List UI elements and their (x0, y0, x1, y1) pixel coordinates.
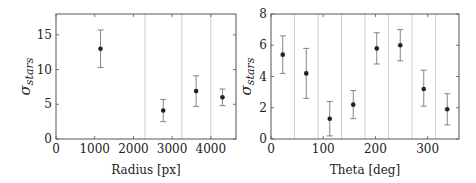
data-point (160, 99, 166, 121)
data-point (280, 36, 286, 74)
radius-chart: 01000200030004000051015Radius [px]σstars (0, 0, 238, 183)
data-point (303, 48, 309, 98)
y-tick-label: 15 (37, 28, 52, 42)
data-point (350, 91, 356, 119)
data-point (421, 70, 427, 106)
x-tick-label: 100 (312, 142, 335, 156)
y-tick-label: 2 (259, 101, 267, 115)
radius-plot-svg: 01000200030004000051015Radius [px]σstars (0, 0, 238, 183)
data-marker (374, 46, 379, 51)
y-tick-label: 8 (259, 7, 267, 21)
data-point (219, 89, 225, 106)
theta-plot-svg: 010020030002468Theta [deg]σstars (238, 0, 476, 183)
x-tick-label: 0 (52, 142, 60, 156)
y-tick-label: 4 (259, 70, 267, 84)
data-point (397, 30, 403, 61)
data-marker (98, 46, 103, 51)
y-tick-label: 0 (259, 132, 267, 146)
data-marker (327, 116, 332, 121)
y-axis-label: σstars (238, 57, 257, 95)
x-tick-label: 200 (364, 142, 387, 156)
data-point (98, 30, 104, 68)
x-axis-label: Radius [px] (111, 163, 181, 177)
data-point (327, 102, 333, 136)
data-marker (398, 43, 403, 48)
x-axis-label: Theta [deg] (330, 163, 400, 177)
theta-chart: 010020030002468Theta [deg]σstars (238, 0, 476, 183)
data-marker (445, 107, 450, 112)
data-marker (194, 89, 199, 94)
x-tick-label: 2000 (118, 142, 149, 156)
data-marker (351, 102, 356, 107)
data-marker (421, 87, 426, 92)
data-marker (161, 108, 166, 113)
y-tick-label: 10 (37, 63, 52, 77)
x-tick-label: 0 (267, 142, 275, 156)
data-point (193, 76, 199, 107)
y-tick-label: 5 (44, 97, 52, 111)
x-tick-label: 1000 (79, 142, 110, 156)
data-marker (280, 52, 285, 57)
x-tick-label: 3000 (157, 142, 188, 156)
y-axis-label: σstars (16, 57, 36, 95)
x-tick-label: 300 (416, 142, 439, 156)
data-marker (304, 71, 309, 76)
y-tick-label: 6 (259, 38, 267, 52)
data-point (374, 33, 380, 64)
data-point (444, 94, 450, 125)
x-tick-label: 4000 (196, 142, 227, 156)
y-tick-label: 0 (44, 132, 52, 146)
data-marker (220, 95, 225, 100)
plot-frame (56, 14, 236, 139)
